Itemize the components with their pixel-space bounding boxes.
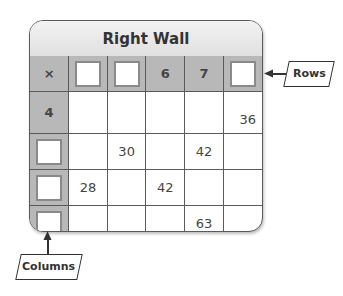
cell bbox=[107, 92, 146, 134]
row-header-4 bbox=[30, 206, 69, 233]
empty-answer-box[interactable] bbox=[36, 211, 62, 233]
empty-answer-box[interactable] bbox=[36, 175, 62, 201]
multiplication-grid: × 6 7 4 36 30 42 28 42 bbox=[30, 56, 262, 232]
empty-answer-box[interactable] bbox=[36, 139, 62, 165]
arrow-left-icon bbox=[264, 69, 273, 78]
cell bbox=[185, 92, 224, 134]
cell bbox=[69, 134, 108, 170]
column-header-5 bbox=[223, 56, 262, 92]
table-row: 4 36 bbox=[30, 92, 262, 134]
column-header-4: 7 bbox=[185, 56, 224, 92]
column-header-2 bbox=[107, 56, 146, 92]
cell: 28 bbox=[69, 170, 108, 206]
cell bbox=[107, 170, 146, 206]
cell bbox=[107, 206, 146, 233]
cell bbox=[146, 92, 185, 134]
cell: 30 bbox=[107, 134, 146, 170]
cell bbox=[223, 134, 262, 170]
cell: 36 bbox=[223, 92, 262, 134]
cell bbox=[223, 206, 262, 233]
row-header-2 bbox=[30, 134, 69, 170]
empty-answer-box[interactable] bbox=[75, 61, 101, 87]
cell bbox=[223, 170, 262, 206]
empty-answer-box[interactable] bbox=[114, 61, 140, 87]
table-title: Right Wall bbox=[30, 21, 262, 57]
cell bbox=[69, 92, 108, 134]
corner-times-symbol: × bbox=[30, 56, 69, 92]
empty-answer-box[interactable] bbox=[230, 61, 256, 87]
cell bbox=[185, 170, 224, 206]
rows-label: Rows bbox=[283, 61, 335, 87]
columns-arrow-line bbox=[47, 238, 49, 254]
cell: 63 bbox=[185, 206, 224, 233]
table-row: 30 42 bbox=[30, 134, 262, 170]
row-header-3 bbox=[30, 170, 69, 206]
column-header-1 bbox=[69, 56, 108, 92]
cell bbox=[69, 206, 108, 233]
arrow-up-icon bbox=[43, 231, 52, 240]
cell: 42 bbox=[185, 134, 224, 170]
header-row: × 6 7 bbox=[30, 56, 262, 92]
table-row: 28 42 bbox=[30, 170, 262, 206]
cell bbox=[146, 206, 185, 233]
multiplication-table-board: Right Wall × 6 7 4 36 30 42 28 bbox=[29, 20, 263, 232]
cell bbox=[146, 134, 185, 170]
cell: 42 bbox=[146, 170, 185, 206]
columns-label: Columns bbox=[15, 254, 83, 280]
table-row: 63 bbox=[30, 206, 262, 233]
column-header-3: 6 bbox=[146, 56, 185, 92]
row-header-1: 4 bbox=[30, 92, 69, 134]
